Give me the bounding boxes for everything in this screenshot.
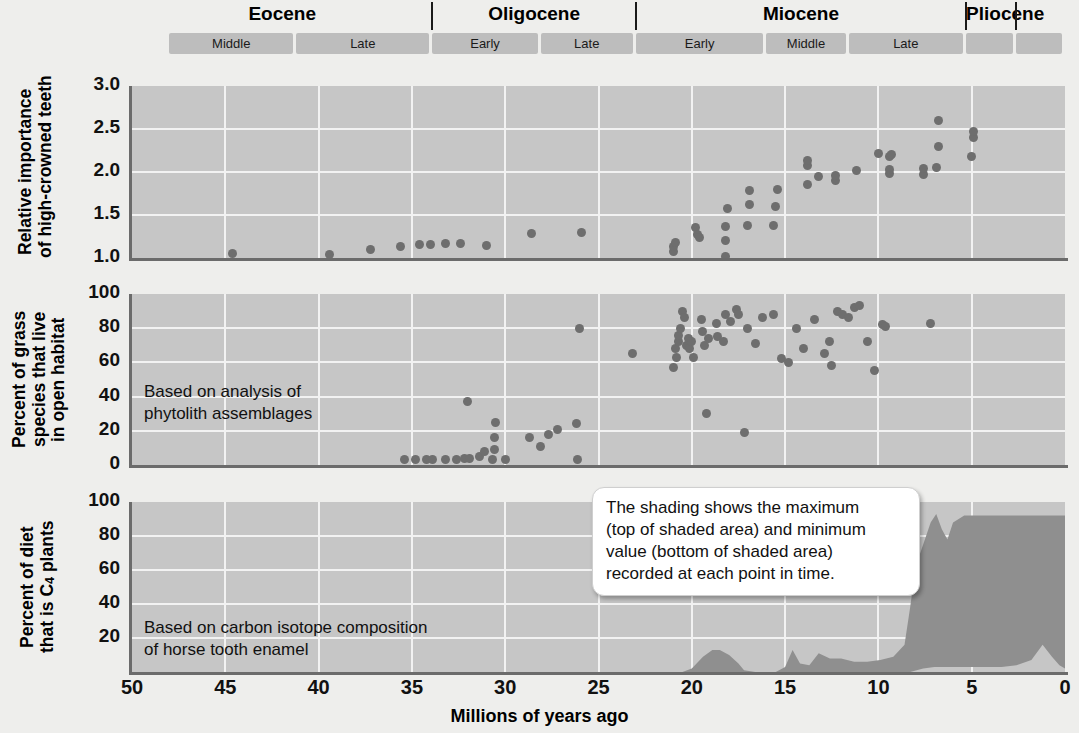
age-band-6: Late <box>849 33 964 54</box>
gridline-v-0-8 <box>877 86 879 258</box>
data-point <box>228 249 237 258</box>
gridline-v-1-1 <box>224 294 226 465</box>
data-point <box>704 334 713 343</box>
data-point <box>810 315 819 324</box>
age-band-2: Early <box>432 33 537 54</box>
data-point <box>967 152 976 161</box>
data-point <box>919 164 928 173</box>
data-point <box>855 301 864 310</box>
data-point <box>743 221 752 230</box>
age-band-3: Late <box>541 33 633 54</box>
data-point <box>465 454 474 463</box>
data-point <box>814 172 823 181</box>
y-axis-title-c4-diet: Percent of diet that is C4 plants <box>18 502 57 672</box>
age-band-7 <box>966 33 1013 54</box>
age-band-1: Late <box>296 33 429 54</box>
data-point <box>628 349 637 358</box>
data-point <box>769 221 778 230</box>
data-point <box>428 455 437 464</box>
data-point <box>669 363 678 372</box>
age-band-label-0: Middle <box>169 33 293 54</box>
epoch-label-miocene: Miocene <box>636 3 966 25</box>
xtick-45: 45 <box>205 676 245 699</box>
xtick-10: 10 <box>858 676 898 699</box>
panel-open-habitat-grass <box>132 294 1065 465</box>
data-point <box>721 236 730 245</box>
epoch-divider-3 <box>1015 2 1017 30</box>
data-point <box>712 319 721 328</box>
data-point <box>572 419 581 428</box>
data-point <box>932 163 941 172</box>
age-band-5: Middle <box>766 33 845 54</box>
data-point <box>482 241 491 250</box>
gridline-v-1-5 <box>598 294 600 465</box>
data-point <box>773 185 782 194</box>
shading-explanation-callout: The shading shows the maximum (top of sh… <box>592 487 920 596</box>
axis-left-0 <box>129 86 132 261</box>
data-point <box>769 310 778 319</box>
gridline-v-0-1 <box>224 86 226 258</box>
data-point <box>488 455 497 464</box>
data-point <box>396 242 405 251</box>
data-point <box>827 361 836 370</box>
data-point <box>400 455 409 464</box>
data-point <box>490 433 499 442</box>
data-point <box>825 337 834 346</box>
age-band-label-4: Early <box>636 33 764 54</box>
age-band-label-6: Late <box>849 33 964 54</box>
xtick-20: 20 <box>672 676 712 699</box>
axis-bottom-0 <box>132 258 1068 261</box>
data-point <box>803 180 812 189</box>
epoch-label-oligocene: Oligocene <box>432 3 635 25</box>
data-point <box>743 324 752 333</box>
xtick-35: 35 <box>392 676 432 699</box>
data-point <box>501 455 510 464</box>
gridline-v-1-2 <box>318 294 320 465</box>
data-point <box>415 240 424 249</box>
data-point <box>885 165 894 174</box>
data-point <box>366 245 375 254</box>
data-point <box>719 337 728 346</box>
data-point <box>863 337 872 346</box>
axis-bottom-2 <box>132 672 1068 675</box>
xtick-15: 15 <box>765 676 805 699</box>
data-point <box>740 428 749 437</box>
gridline-v-1-7 <box>784 294 786 465</box>
data-point <box>926 319 935 328</box>
gridline-v-0-2 <box>318 86 320 258</box>
xtick-25: 25 <box>579 676 619 699</box>
data-point <box>887 150 896 159</box>
data-point <box>553 425 562 434</box>
data-point <box>671 238 680 247</box>
gridline-v-0-4 <box>504 86 506 258</box>
x-axis-title: Millions of years ago <box>0 706 1079 727</box>
data-point <box>527 229 536 238</box>
data-point <box>702 409 711 418</box>
data-point <box>874 149 883 158</box>
data-point <box>934 142 943 151</box>
data-point <box>573 455 582 464</box>
data-point <box>411 455 420 464</box>
age-band-4: Early <box>636 33 764 54</box>
data-point <box>799 344 808 353</box>
data-point <box>426 240 435 249</box>
data-point <box>575 324 584 333</box>
data-point <box>695 233 704 242</box>
gridline-v-1-9 <box>971 294 973 465</box>
data-point <box>745 186 754 195</box>
xtick-50: 50 <box>112 676 152 699</box>
data-point <box>490 445 499 454</box>
age-band-label-3: Late <box>541 33 633 54</box>
panel-note-c4-diet: Based on carbon isotope composition of h… <box>144 617 428 661</box>
data-point <box>697 315 706 324</box>
data-point <box>734 310 743 319</box>
y-axis-title-open-habitat-grass: Percent of grass species that live in op… <box>10 294 69 465</box>
gridline-v-0-3 <box>411 86 413 258</box>
data-point <box>758 313 767 322</box>
data-point <box>689 353 698 362</box>
data-point <box>831 171 840 180</box>
data-point <box>441 239 450 248</box>
data-point <box>544 430 553 439</box>
gridline-v-0-9 <box>971 86 973 258</box>
data-point <box>687 337 696 346</box>
